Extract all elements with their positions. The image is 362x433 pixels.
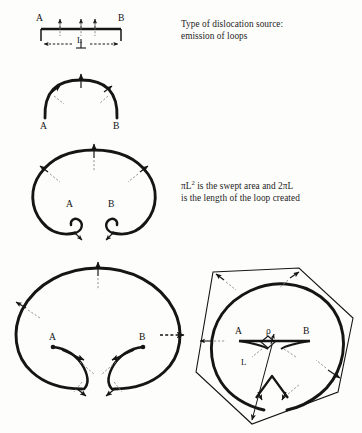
escape-guide-right [114,382,122,392]
caption-source-line1: Type of dislocation source: [181,19,283,31]
panel4-label-a: A [49,332,56,342]
caption-swept-line2: is the length of the loop created [181,193,300,205]
splay-guide-left [252,349,262,357]
hexagon-outline [196,268,353,424]
panel1-label-a: A [36,13,43,23]
escape-guide-left [74,382,82,392]
curl-arrow-left [74,232,82,240]
expansion-guide-left [28,310,40,318]
panel-bowed-arc [45,74,117,118]
caption-dislocation-source: Type of dislocation source: emission of … [181,19,283,42]
corner-arrow-topright [290,272,299,278]
horseshoe-loop-path [33,150,156,234]
corner-guide-bottomright [316,360,326,368]
glide-mark-right [128,174,138,182]
panel-closed-loop [16,262,184,396]
lower-guide-right [288,384,300,394]
glide-mark-left [54,96,64,104]
annihilation-arrow-right [112,350,134,360]
panel2-label-b: B [113,121,119,131]
glide-mark-right [99,96,108,104]
panel3-label-b: B [108,199,114,209]
panel3-label-a: A [66,199,73,209]
splay-guide-right [284,349,296,357]
panel5-label-b: B [303,326,309,336]
panel1-label-length: L [77,36,82,45]
dislocation-source-figure: A B L A B A B A B A ρ B L Type of disloc… [0,0,362,433]
pin-dot-a [51,345,56,350]
panel-horseshoe-loop [33,144,156,240]
caption-swept-area: πL2 is the swept area and 2πL is the len… [181,181,300,204]
panel1-label-b: B [118,13,124,23]
caption-source-line2: emission of loops [181,31,283,43]
panel5-label-a: A [235,326,242,336]
curl-left-pin [71,219,82,233]
panel5-label-radius: L [241,358,246,367]
panel2-label-a: A [40,121,47,131]
caption-swept-pi-l: πL [181,181,191,191]
annihilation-arrow-left [62,350,84,360]
glide-mark-left [50,174,60,182]
curl-right-pin [106,219,117,233]
panel4-label-b: B [139,332,145,342]
caption-swept-line1: πL2 is the swept area and 2πL [181,181,300,193]
pin-dot-b [141,345,146,350]
panel-hexagon-loop [196,268,353,424]
corner-arrow-topleft [216,274,224,280]
inscribed-loop-path [211,284,343,410]
panel5-label-rho: ρ [266,326,271,336]
caption-swept-line1-rest: is the swept area and 2πL [195,181,293,191]
corner-guide-topleft [226,282,236,290]
figure-drawing [0,0,362,433]
curl-arrow-right [106,232,114,240]
